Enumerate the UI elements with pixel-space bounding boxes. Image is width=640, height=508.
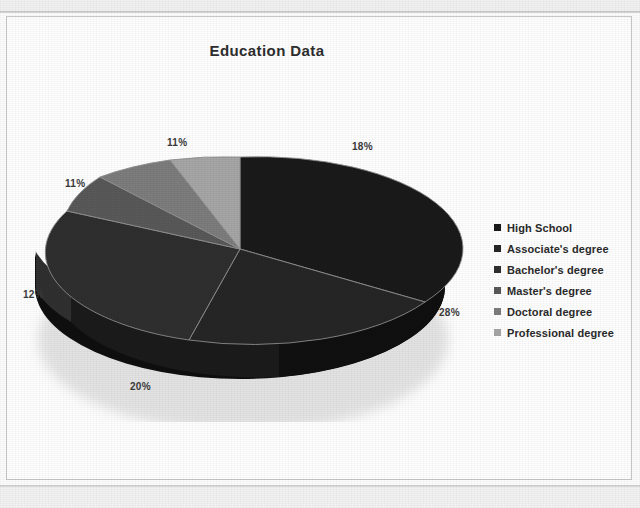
pct-label-masters: 12% bbox=[23, 289, 44, 300]
legend-label: Associate's degree bbox=[507, 243, 609, 255]
legend-swatch-icon bbox=[494, 287, 501, 294]
pct-label-associates: 28% bbox=[439, 307, 460, 318]
legend-swatch-icon bbox=[494, 224, 501, 231]
legend-swatch-icon bbox=[494, 266, 501, 273]
pct-label-high-school: 18% bbox=[352, 141, 373, 152]
scanned-page: Education Data bbox=[0, 0, 640, 508]
pct-label-doctoral: 11% bbox=[65, 178, 85, 189]
legend-item-doctoral[interactable]: Doctoral degree bbox=[494, 301, 640, 322]
pct-label-bachelors: 20% bbox=[130, 381, 151, 392]
legend-item-bachelors[interactable]: Bachelor's degree bbox=[494, 259, 640, 280]
legend-swatch-icon bbox=[494, 245, 501, 252]
pie-chart-3d: 18% 28% 20% 12% 11% 11% bbox=[25, 122, 485, 422]
legend-item-professional[interactable]: Professional degree bbox=[494, 322, 640, 343]
chart-title: Education Data bbox=[7, 42, 527, 59]
legend-label: High School bbox=[507, 222, 572, 234]
legend-label: Master's degree bbox=[507, 285, 592, 297]
legend-label: Doctoral degree bbox=[507, 306, 592, 318]
scan-top-margin bbox=[0, 0, 640, 11]
chart-legend: High School Associate's degree Bachelor'… bbox=[494, 217, 640, 343]
scan-bottom-margin bbox=[0, 487, 640, 508]
pct-label-professional: 11% bbox=[167, 137, 187, 148]
legend-item-masters[interactable]: Master's degree bbox=[494, 280, 640, 301]
pie-svg bbox=[25, 122, 485, 422]
legend-item-associates[interactable]: Associate's degree bbox=[494, 238, 640, 259]
legend-label: Professional degree bbox=[507, 327, 614, 339]
legend-label: Bachelor's degree bbox=[507, 264, 604, 276]
legend-swatch-icon bbox=[494, 329, 501, 336]
scan-top-rule bbox=[0, 11, 640, 13]
chart-frame: Education Data bbox=[6, 16, 632, 480]
pie-top-face bbox=[45, 157, 463, 345]
legend-swatch-icon bbox=[494, 308, 501, 315]
legend-item-high-school[interactable]: High School bbox=[494, 217, 640, 238]
